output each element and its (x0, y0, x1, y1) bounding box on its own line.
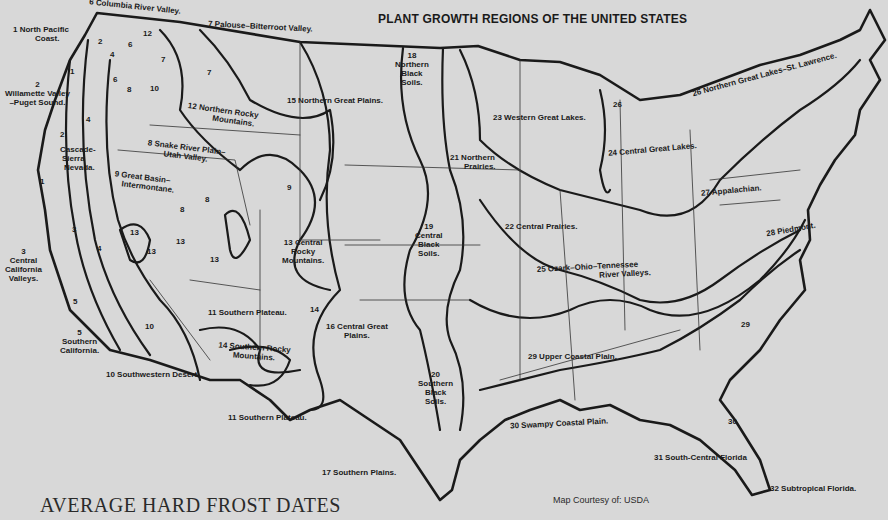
region-number: 8 (127, 85, 131, 94)
region-number: 12 (143, 29, 152, 38)
map-credit: Map Courtesy of: USDA (553, 495, 649, 505)
region-label-16: 16 Central GreatPlains. (326, 322, 388, 340)
region-number: 29 (741, 320, 750, 329)
region-number: 4 (97, 244, 101, 253)
region-number: 13 (176, 237, 185, 246)
region-number: 5 (73, 297, 77, 306)
region-number: 14 (310, 305, 319, 314)
region-number: 4 (86, 115, 90, 124)
region-label-22: 22 Central Prairies. (505, 222, 577, 231)
region-label-18: 18NorthernBlackSoils. (395, 51, 429, 87)
subtitle: AVERAGE HARD FROST DATES (40, 494, 341, 517)
region-label-29: 29 Upper Coastal Plain. (528, 352, 617, 361)
region-number: 7 (207, 68, 211, 77)
region-label-31: 31 South-Central Florida (654, 453, 747, 462)
region-label-15: 15 Northern Great Plains. (287, 96, 383, 105)
region-label-10: 10 Southwestern Desert. (106, 370, 199, 379)
region-number: 10 (150, 84, 159, 93)
region-label-17: 17 Southern Plains. (322, 468, 396, 477)
region-number: 8 (205, 195, 209, 204)
region-label-11b: 11 Southern Plateau. (228, 413, 307, 422)
region-number: 1 (70, 67, 74, 76)
region-number: 30 (728, 417, 737, 426)
region-label-32: 32 Subtropical Florida. (770, 484, 856, 493)
region-label-3: 3CentralCaliforniaValleys. (5, 247, 42, 283)
map-title: PLANT GROWTH REGIONS OF THE UNITED STATE… (378, 12, 687, 26)
region-number: 7 (161, 55, 165, 64)
region-number: 8 (180, 205, 184, 214)
region-label-20: 20SouthernBlackSoils. (418, 370, 453, 406)
region-number: 6 (113, 75, 117, 84)
region-number: 13 (210, 255, 219, 264)
region-number: 6 (128, 40, 132, 49)
region-number: 4 (110, 50, 114, 59)
region-number: 3 (72, 225, 76, 234)
region-label-13: 13 CentralRockyMountains. (282, 238, 324, 265)
region-label-23: 23 Western Great Lakes. (493, 113, 586, 122)
region-label-1: 1 North PacificCoast. (13, 25, 69, 43)
region-number: 9 (287, 183, 291, 192)
region-number: 2 (98, 37, 102, 46)
region-label-11a: 11 Southern Plateau. (208, 308, 287, 317)
region-label-4: Cascade-SierraNevada. (60, 145, 96, 172)
region-number: 13 (147, 247, 156, 256)
region-number: 2 (60, 130, 64, 139)
region-number: 13 (130, 228, 139, 237)
region-number: 1 (40, 177, 44, 186)
region-label-5: 5SouthernCalifornia. (60, 328, 99, 355)
region-number: 26 (613, 100, 622, 109)
region-number: 10 (145, 322, 154, 331)
region-label-21: 21 NorthernPrairies. (450, 153, 496, 171)
region-label-2: 2Willamette Valley–Puget Sound. (5, 80, 70, 107)
region-label-19: 19CentralBlackSoils. (415, 222, 443, 258)
